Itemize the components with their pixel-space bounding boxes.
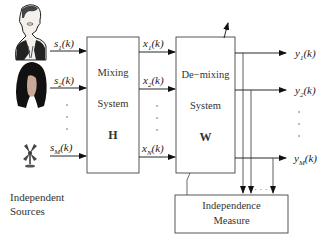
measure-label: Measure — [175, 216, 288, 227]
feedback-line — [187, 173, 190, 195]
mixing-matrix-symbol: H — [87, 129, 139, 141]
independence-label: Independence — [175, 201, 288, 212]
output-label-yM: yM(k) — [294, 153, 317, 167]
output-label-y1: y1(k) — [295, 48, 316, 62]
source-label-s1: s1(k) — [54, 38, 74, 52]
tap-ellipsis: · · · — [254, 185, 268, 194]
fan-noise-icon — [23, 144, 37, 168]
sources-caption: Independent Sources — [10, 191, 64, 219]
mixed-label-xN: xN(k) — [142, 143, 164, 157]
source-label-sM: sM(k) — [50, 142, 72, 156]
output-label-y2: y2(k) — [295, 85, 316, 99]
sources-caption-line1: Independent — [10, 191, 64, 205]
mixed-label-x1: x1(k) — [143, 38, 164, 52]
sources-caption-line2: Sources — [10, 205, 64, 219]
adaptation-arrow — [224, 23, 228, 38]
demixing-system-label: System — [176, 101, 235, 112]
demixing-matrix-symbol: W — [176, 131, 235, 143]
demixing-label: De−mixing — [176, 70, 235, 81]
man-speaker-icon — [16, 5, 47, 60]
measure-tap-arrows — [243, 53, 273, 193]
source-label-s2: s2(k) — [54, 75, 74, 89]
woman-speaker-icon — [16, 62, 47, 108]
mixing-label: Mixing — [87, 68, 139, 79]
mixed-label-x2: x2(k) — [143, 75, 164, 89]
mixing-system-label: System — [87, 99, 139, 110]
